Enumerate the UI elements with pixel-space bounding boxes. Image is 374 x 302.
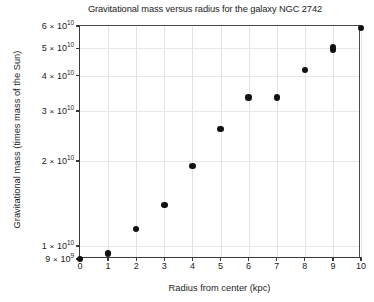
- x-tick-label: 5: [218, 261, 223, 271]
- data-point: [302, 67, 308, 73]
- x-tick-label: 7: [274, 261, 279, 271]
- y-tick-label: 9 × 109: [45, 254, 74, 264]
- y-tick-label: 4 × 1010: [42, 71, 74, 81]
- y-tick-label: 2 × 1010: [42, 156, 74, 166]
- x-tick-label: 1: [106, 261, 111, 271]
- x-axis-title: Radius from center (kpc): [79, 283, 360, 293]
- y-tick-mark: [76, 75, 80, 76]
- gridline-horizontal: [80, 48, 359, 49]
- gridline-vertical: [136, 26, 137, 257]
- gridline-horizontal: [80, 76, 359, 77]
- gridline-horizontal: [80, 161, 359, 162]
- data-point: [161, 202, 167, 208]
- x-tick-label: 2: [134, 261, 139, 271]
- y-tick-label: 6 × 1010: [42, 21, 74, 31]
- gridline-vertical: [192, 26, 193, 257]
- gridline-vertical: [333, 26, 334, 257]
- gridline-vertical: [361, 26, 362, 257]
- gridline-horizontal: [80, 111, 359, 112]
- y-tick-mark: [76, 110, 80, 111]
- x-tick-label: 0: [77, 261, 82, 271]
- y-tick-label: 5 × 1010: [42, 43, 74, 53]
- data-point: [217, 126, 223, 132]
- x-tick-label: 8: [302, 261, 307, 271]
- gridline-vertical: [221, 26, 222, 257]
- x-tick-label: 10: [356, 261, 366, 271]
- y-tick-mark: [76, 245, 80, 246]
- data-point: [358, 25, 364, 31]
- gridline-vertical: [164, 26, 165, 257]
- plot-area: 9 × 1091 × 10102 × 10103 × 10104 × 10105…: [79, 25, 360, 258]
- gridline-vertical: [277, 26, 278, 257]
- data-point: [105, 250, 111, 256]
- x-tick-label: 4: [190, 261, 195, 271]
- data-point: [245, 94, 251, 100]
- y-axis-title: Gravitational mass (times mass of the Su…: [12, 20, 23, 260]
- y-tick-label: 1 × 1010: [42, 241, 74, 251]
- chart-title: Gravitational mass versus radius for the…: [40, 3, 370, 15]
- gridline-vertical: [108, 26, 109, 257]
- data-point: [189, 163, 195, 169]
- data-point: [274, 94, 280, 100]
- gridline-vertical: [249, 26, 250, 257]
- gridline-vertical: [305, 26, 306, 257]
- y-tick-label: 3 × 1010: [42, 106, 74, 116]
- y-tick-mark: [76, 25, 80, 26]
- x-tick-label: 3: [162, 261, 167, 271]
- y-tick-mark: [76, 160, 80, 161]
- y-tick-mark: [76, 48, 80, 49]
- x-tick-label: 6: [246, 261, 251, 271]
- chart-figure: Gravitational mass versus radius for the…: [0, 0, 374, 302]
- gridline-horizontal: [80, 246, 359, 247]
- x-tick-label: 9: [330, 261, 335, 271]
- data-point: [133, 226, 139, 232]
